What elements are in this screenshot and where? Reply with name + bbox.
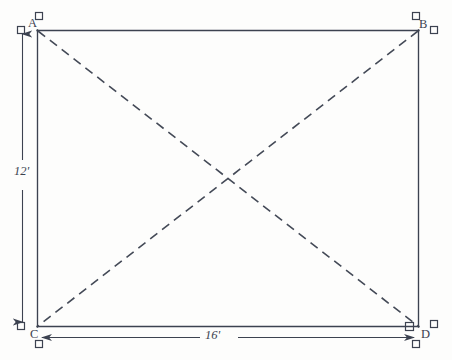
- corner-label-a: A: [28, 17, 37, 30]
- stake-marker-d-right: [431, 321, 438, 328]
- stake-marker-c-left: [18, 323, 25, 330]
- stake-marker-a-left: [18, 27, 25, 34]
- corner-label-c: C: [30, 328, 39, 341]
- stake-marker-b-right: [431, 27, 438, 34]
- width-dimension-label: 16': [205, 329, 220, 342]
- height-dimension-label: 12': [14, 165, 29, 178]
- corner-stake-markers: [18, 13, 438, 348]
- corner-label-d: D: [421, 328, 430, 341]
- diagonals: [38, 31, 418, 326]
- stake-marker-d-below: [413, 341, 420, 348]
- diagram-canvas: A B C D 12' 16': [0, 0, 452, 360]
- corner-label-b: B: [419, 18, 428, 31]
- stake-marker-c-below: [36, 341, 43, 348]
- rectangle-diagram-svg: [0, 0, 452, 360]
